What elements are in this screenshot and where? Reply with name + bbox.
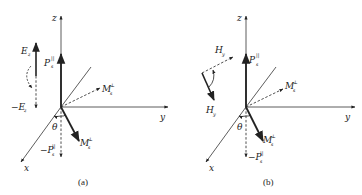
p-parallel-sub: s [256,62,259,67]
caption-a: (a) [78,177,88,187]
diagonal-axis [246,67,276,107]
e-field-sub: z [27,51,31,57]
theta-arc [54,116,61,117]
x-axis [206,107,246,162]
caption-b: (b) [263,177,274,187]
m-perp-dashed-arrow [61,88,100,107]
h-field-dashed-arrow [202,57,233,73]
y-axis-label: y [159,112,166,122]
rotation-arrow [209,70,214,87]
m-perp-solid-sup: ⊥ [271,133,276,139]
theta-label: θ [52,122,58,132]
m-perp-dashed-sup: ⊥ [293,79,298,85]
rotation-arrow [27,66,32,88]
diagonal-axis [61,67,91,107]
neg-p-parallel-sup: || [260,150,264,157]
m-perp-solid-sub: s [271,142,274,147]
m-perp-solid-arrow [61,107,79,141]
panel-b: z y x P || s −P || s M ⊥ s M ⊥ s θ H y H… [202,13,355,187]
theta-label: θ [237,122,243,132]
p-parallel-sub: s [51,64,54,69]
figure: z y x P || s −P || s M ⊥ s M ⊥ s θ E z −… [0,0,362,195]
m-perp-solid-sup: ⊥ [88,136,93,142]
z-axis-label: z [51,13,57,23]
m-perp-solid-sub: s [88,145,91,150]
h-field-bottom-sub: y [212,111,216,118]
p-parallel-sup: || [256,52,260,59]
m-perp-dashed-sub: s [110,91,113,96]
h-field-top-sub: y [221,51,225,58]
m-perp-dashed-arrow [246,89,283,107]
p-parallel-label: P [43,58,51,68]
neg-e-field-sub: z [23,107,27,113]
h-field-solid-arrow [202,73,214,100]
x-axis-label: x [209,163,214,173]
neg-p-parallel-sub: s [52,152,55,157]
m-perp-dashed-sup: ⊥ [110,82,115,88]
p-parallel-sup: || [51,55,55,62]
m-perp-solid-arrow [246,107,263,141]
e-field-label: E [20,46,28,56]
m-perp-dashed-sub: s [293,88,296,93]
neg-p-parallel-sup: || [52,143,56,150]
theta-arc [239,116,246,117]
p-parallel-label: P [248,55,256,65]
panel-a: z y x P || s −P || s M ⊥ s M ⊥ s θ E z −… [11,13,168,187]
y-axis-label: y [344,112,351,122]
z-axis-label: z [236,13,242,23]
neg-p-parallel-sub: s [260,159,263,164]
x-axis-label: x [24,163,29,173]
